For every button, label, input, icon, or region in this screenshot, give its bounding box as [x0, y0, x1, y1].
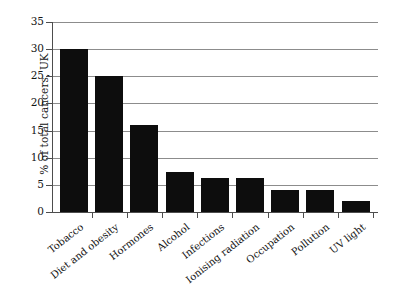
- x-axis-tick: [303, 213, 304, 218]
- y-axis-tick-label: 5: [4, 178, 44, 190]
- y-axis-tick-label: 10: [4, 151, 44, 163]
- bar: [306, 190, 334, 212]
- x-axis-tick: [162, 213, 163, 218]
- y-axis-line: [52, 22, 53, 213]
- bar: [130, 125, 158, 212]
- bar-chart-figure: % of total cancers, UK 05101520253035 To…: [0, 0, 396, 296]
- bar: [166, 172, 194, 212]
- gridline: [52, 49, 378, 50]
- bar: [201, 178, 229, 212]
- x-axis-tick: [127, 213, 128, 218]
- bar: [236, 178, 264, 212]
- gridline: [52, 22, 378, 23]
- x-axis-tick: [268, 213, 269, 218]
- x-axis-tick: [373, 213, 374, 218]
- x-axis-tick: [197, 213, 198, 218]
- y-axis-tick-label: 25: [4, 69, 44, 81]
- x-axis-line: [52, 212, 378, 213]
- bar: [60, 49, 88, 212]
- y-axis-tick-label: 20: [4, 96, 44, 108]
- x-axis-tick: [92, 213, 93, 218]
- y-axis-tick-label: 35: [4, 15, 44, 27]
- y-axis-tick-label: 15: [4, 124, 44, 136]
- bar: [95, 76, 123, 212]
- y-axis-tick-label: 0: [4, 205, 44, 217]
- x-axis-tick: [232, 213, 233, 218]
- bar: [342, 201, 370, 212]
- bar: [271, 190, 299, 212]
- y-axis-tick-label: 30: [4, 42, 44, 54]
- x-axis-tick: [338, 213, 339, 218]
